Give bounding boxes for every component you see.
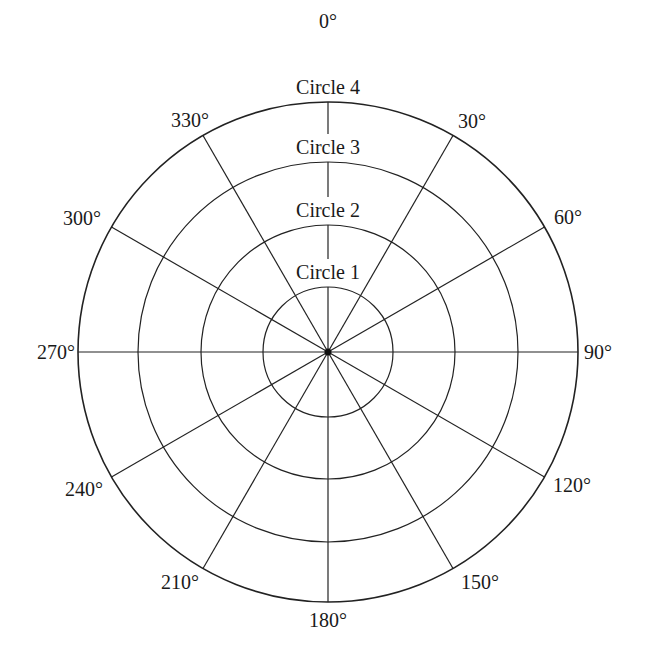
circle-1-label: Circle 1 [296, 261, 360, 283]
radial-line-30 [328, 135, 453, 352]
polar-grid-diagram: Circle 1Circle 2Circle 3Circle 4 0°30°60… [0, 0, 646, 657]
angle-label-0: 0° [319, 10, 337, 32]
radial-line-210 [203, 352, 328, 569]
radial-line-60 [328, 227, 545, 352]
circle-4-label: Circle 4 [296, 76, 360, 98]
angle-label-180: 180° [309, 609, 347, 631]
angle-label-90: 90° [584, 341, 612, 363]
circle-2-label: Circle 2 [296, 199, 360, 221]
angle-labels: 0°30°60°90°120°150°180°210°240°270°300°3… [37, 10, 612, 631]
angle-label-270: 270° [37, 341, 75, 363]
angle-label-210: 210° [161, 571, 199, 593]
angle-label-240: 240° [65, 478, 103, 500]
radial-line-300 [111, 227, 328, 352]
angle-label-150: 150° [461, 571, 499, 593]
angle-label-330: 330° [171, 109, 209, 131]
circle-3-label: Circle 3 [296, 136, 360, 158]
angle-label-30: 30° [458, 110, 486, 132]
angle-label-120: 120° [553, 474, 591, 496]
center-point [325, 349, 332, 356]
radial-line-120 [328, 352, 545, 477]
radial-line-240 [111, 352, 328, 477]
radial-line-330 [203, 135, 328, 352]
angle-label-300: 300° [63, 207, 101, 229]
radial-line-150 [328, 352, 453, 569]
angle-label-60: 60° [554, 206, 582, 228]
